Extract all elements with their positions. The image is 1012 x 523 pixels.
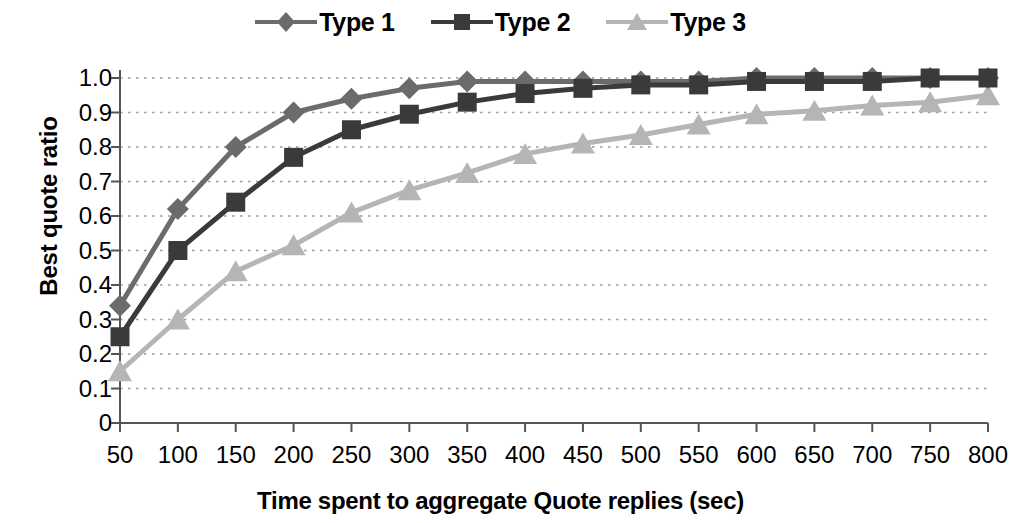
data-point-square (747, 72, 766, 91)
data-point-diamond (456, 70, 478, 92)
data-point-square (863, 72, 882, 91)
data-point-square (979, 69, 998, 88)
data-point-square (168, 241, 187, 260)
series-line (120, 78, 988, 337)
data-point-diamond (340, 88, 362, 110)
data-point-diamond (109, 295, 131, 317)
data-point-square (689, 75, 708, 94)
data-point-square (342, 120, 361, 139)
data-point-square (400, 105, 419, 124)
data-point-diamond (398, 77, 420, 99)
data-point-square (921, 69, 940, 88)
data-point-triangle (224, 260, 248, 281)
data-point-square (631, 75, 650, 94)
data-point-square (516, 84, 535, 103)
data-point-square (226, 193, 245, 212)
series-type-3 (108, 84, 1000, 381)
data-point-square (458, 93, 477, 112)
data-point-square (284, 148, 303, 167)
data-point-square (805, 72, 824, 91)
data-point-triangle (282, 234, 306, 255)
data-point-square (573, 79, 592, 98)
data-point-square (111, 327, 130, 346)
data-point-triangle (339, 202, 363, 223)
data-point-diamond (283, 102, 305, 124)
